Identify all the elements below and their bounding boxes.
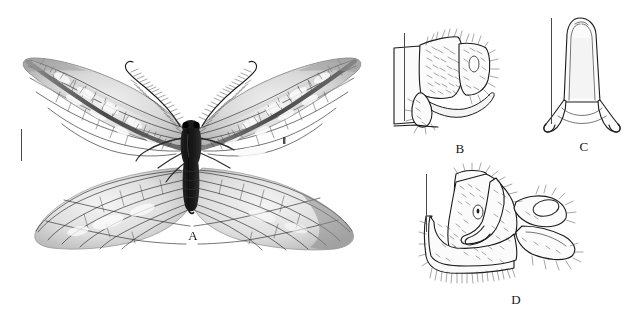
scale-bar-panel-d [426,174,427,232]
panel-c-aedeagus-ventral: C [542,12,632,162]
scale-bar-panel-b [404,33,405,121]
basal-arm-left [544,100,566,132]
paramere-lower [516,226,575,260]
left-forewing [23,58,190,156]
aedeagus-drawing [542,12,632,147]
valve-upper [419,37,463,99]
genitalia-lateral-drawing [398,14,528,149]
panel-d-genitalia-caudolateral: D [418,168,608,323]
scale-bar-panel-a [21,129,22,161]
moth-habitus-illustration [0,0,410,280]
panel-label-b: B [450,141,470,157]
genitalia-caudolateral-drawing [418,168,608,293]
panel-label-c: C [574,139,594,155]
panel-label-a: A [183,228,203,244]
panel-a-moth-photograph: A [0,0,410,280]
panel-label-d: D [506,292,526,308]
scale-bar-panel-c [551,18,552,124]
right-hindwing [192,168,353,250]
sensory-pit [469,56,479,72]
panel-b-genitalia-lateral: B [398,14,528,164]
pit-center [477,208,480,213]
basal-arm-right [598,100,620,132]
figure-plate: A [0,0,632,323]
